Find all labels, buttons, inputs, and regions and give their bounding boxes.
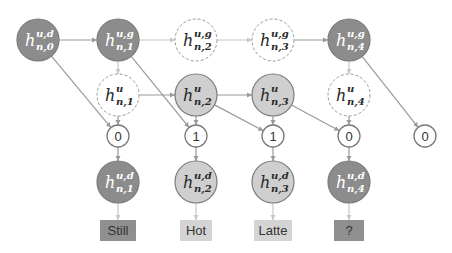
state-node-h_n1_u: hun,1 [97,74,139,116]
gate-bit-node: 0 [414,125,436,147]
word-label: ? [345,223,352,238]
state-node-h_n1_ud: hu,dn,1 [97,161,139,203]
node-superscript: u [194,83,201,94]
node-subscript: n,4 [347,183,365,195]
word-token-1: Still [100,220,136,241]
state-node-h_n4_u: hun,4 [328,74,370,116]
node-subscript: n,1 [116,41,134,53]
state-node-h_n0_ud: hu,dn,0 [17,19,59,61]
node-circle [252,19,294,61]
node-label: h [183,31,193,50]
node-label: h [183,173,193,192]
node-label: h [105,173,115,192]
edge-arrow [362,56,418,127]
node-subscript: n,2 [194,183,212,195]
state-node-h_n4_ug: hu,gn,4 [328,19,370,61]
node-label: h [260,173,270,192]
node-superscript: u,d [347,170,365,182]
gate-bit-node: 0 [338,125,360,147]
state-node-h_n3_ud: hu,dn,3 [252,161,294,203]
gate-bit-label: 1 [192,129,199,144]
gate-bit-label: 1 [269,129,276,144]
word-label: Latte [259,223,288,238]
node-superscript: u,d [271,170,289,182]
node-circle [328,19,370,61]
node-subscript: n,4 [347,96,365,108]
word-token-4: ? [334,220,364,241]
state-node-h_n2_u: hun,2 [175,74,217,116]
node-superscript: u [347,83,354,94]
node-subscript: n,1 [116,183,134,195]
word-label: Hot [186,223,207,238]
node-superscript: u [271,83,278,94]
node-label: h [105,86,115,105]
node-subscript: n,3 [271,96,289,108]
gate-bit-label: 0 [114,129,121,144]
node-circle [97,161,139,203]
state-node-h_n2_ud: hu,dn,2 [175,161,217,203]
nodes: hu,dn,0hu,gn,1hu,gn,2hu,gn,3hu,gn,4hun,1… [17,19,436,241]
node-circle [97,74,139,116]
node-label: h [260,86,270,105]
gate-bit-label: 0 [421,129,428,144]
node-superscript: u,g [116,28,134,40]
edge-arrow [291,105,339,131]
node-subscript: n,2 [194,41,212,53]
node-subscript: n,4 [347,41,365,53]
gate-bit-node: 1 [262,125,284,147]
word-token-3: Latte [254,220,292,241]
gate-bit-label: 0 [345,129,352,144]
node-subscript: n,1 [116,96,134,108]
node-subscript: n,2 [194,96,212,108]
node-subscript: n,3 [271,41,289,53]
node-circle [252,74,294,116]
node-label: h [183,86,193,105]
state-node-h_n4_ud: hu,dn,4 [328,161,370,203]
node-superscript: u [116,83,123,94]
node-label: h [336,31,346,50]
state-node-h_n1_ug: hu,gn,1 [97,19,139,61]
gate-bit-node: 1 [185,125,207,147]
node-superscript: u,g [347,28,365,40]
node-circle [175,19,217,61]
node-superscript: u,g [194,28,212,40]
state-node-h_n2_ug: hu,gn,2 [175,19,217,61]
node-subscript: n,0 [36,41,54,53]
node-superscript: u,d [194,170,212,182]
edge-arrow [215,105,264,131]
state-node-h_n3_ug: hu,gn,3 [252,19,294,61]
word-token-2: Hot [180,220,212,241]
node-label: h [336,173,346,192]
node-label: h [260,31,270,50]
state-transition-diagram: hu,dn,0hu,gn,1hu,gn,2hu,gn,3hu,gn,4hun,1… [0,0,452,253]
state-node-h_n3_u: hun,3 [252,74,294,116]
node-circle [97,19,139,61]
node-circle [328,74,370,116]
node-superscript: u,d [116,170,134,182]
node-circle [175,161,217,203]
node-circle [328,161,370,203]
node-subscript: n,3 [271,183,289,195]
node-circle [252,161,294,203]
node-label: h [336,86,346,105]
node-superscript: u,g [271,28,289,40]
node-circle [175,74,217,116]
node-label: h [105,31,115,50]
gate-bit-node: 0 [107,125,129,147]
node-circle [17,19,59,61]
node-label: h [25,31,35,50]
node-superscript: u,d [36,28,54,40]
word-label: Still [108,223,129,238]
